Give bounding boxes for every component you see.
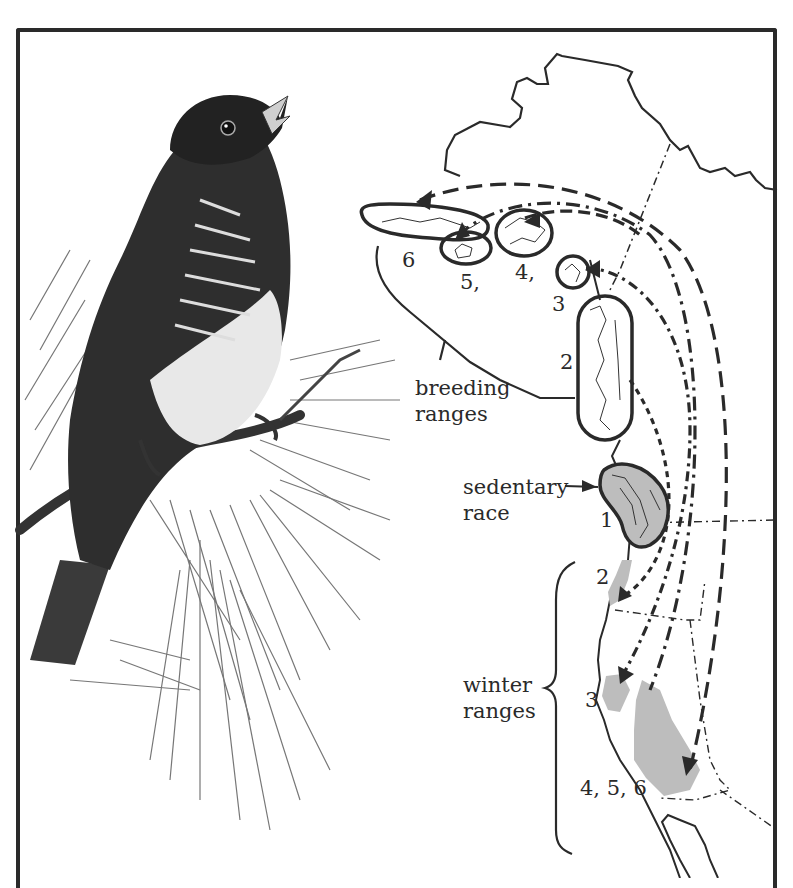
breeding-range-4 [496, 210, 552, 256]
bird-illustration [20, 95, 400, 830]
winter-label-456: 4, 5, 6 [580, 776, 647, 800]
breeding-label-2: 2 [560, 350, 573, 374]
bird-eye-icon [221, 121, 235, 135]
winter-ranges-label: winter ranges [463, 672, 536, 724]
breeding-label-3: 3 [552, 292, 565, 316]
winter-label-3: 3 [585, 688, 598, 712]
sedentary-label-1: 1 [600, 508, 613, 532]
breeding-label-6: 6 [402, 248, 415, 272]
migration-map [361, 54, 777, 878]
sedentary-race-label: sedentary race [463, 474, 568, 526]
migration-path-5 [458, 203, 695, 690]
breeding-label-4: 4, [515, 260, 535, 284]
winter-bracket [545, 562, 575, 854]
breeding-label-5: 5, [460, 270, 480, 294]
winter-label-2: 2 [596, 565, 609, 589]
breeding-ranges-label: breeding ranges [415, 375, 510, 427]
breeding-range-3 [557, 256, 589, 288]
breeding-range-6 [361, 204, 488, 240]
